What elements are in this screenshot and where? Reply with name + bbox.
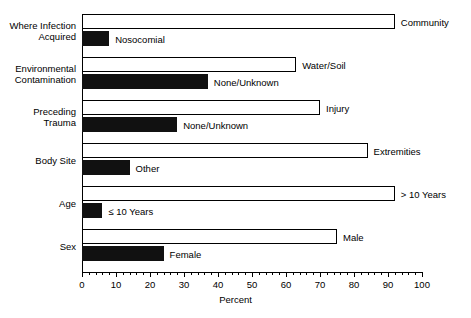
category-label: Sex xyxy=(0,241,76,252)
x-tick-minor xyxy=(415,272,416,275)
x-tick-minor xyxy=(96,272,97,275)
x-tick-minor xyxy=(313,272,314,275)
bar xyxy=(82,14,395,29)
x-tick-major xyxy=(286,272,287,277)
x-tick-label: 20 xyxy=(145,279,156,290)
x-tick-minor xyxy=(198,272,199,275)
x-tick-minor xyxy=(204,272,205,275)
bar-label: Extremities xyxy=(374,145,421,156)
x-tick-minor xyxy=(381,272,382,275)
x-tick-minor xyxy=(395,272,396,275)
bar-chart: Where InfectionAcquiredCommunityNosocomi… xyxy=(0,0,471,318)
x-tick-minor xyxy=(211,272,212,275)
x-tick-minor xyxy=(334,272,335,275)
x-tick-minor xyxy=(164,272,165,275)
category-label: Body Site xyxy=(0,155,76,166)
bar-label: > 10 Years xyxy=(401,188,446,199)
x-tick-major xyxy=(116,272,117,277)
x-tick-minor xyxy=(238,272,239,275)
bar-label: Female xyxy=(170,248,202,259)
category-label: Where InfectionAcquired xyxy=(0,20,76,42)
bar xyxy=(82,229,337,244)
x-tick-minor xyxy=(245,272,246,275)
x-tick-major xyxy=(320,272,321,277)
bar xyxy=(82,186,395,201)
category-label-line: Environmental xyxy=(0,63,76,74)
x-tick-minor xyxy=(177,272,178,275)
x-tick-minor xyxy=(361,272,362,275)
x-tick-minor xyxy=(136,272,137,275)
x-tick-minor xyxy=(266,272,267,275)
bar-label: Injury xyxy=(326,102,349,113)
x-tick-major xyxy=(388,272,389,277)
x-tick-major xyxy=(422,272,423,277)
x-tick-minor xyxy=(306,272,307,275)
bar xyxy=(82,160,130,175)
category-label-line: Where Infection xyxy=(0,20,76,31)
x-tick-minor xyxy=(368,272,369,275)
x-tick-minor xyxy=(347,272,348,275)
category-label-line: Body Site xyxy=(0,155,76,166)
bar-label: Other xyxy=(136,162,160,173)
x-tick-minor xyxy=(272,272,273,275)
plot-area: Where InfectionAcquiredCommunityNosocomi… xyxy=(82,14,422,272)
x-tick-minor xyxy=(340,272,341,275)
x-tick-label: 40 xyxy=(213,279,224,290)
bar-label: Nosocomial xyxy=(115,33,165,44)
x-tick-label: 90 xyxy=(383,279,394,290)
x-tick-minor xyxy=(327,272,328,275)
bar xyxy=(82,117,177,132)
bar-label: ≤ 10 Years xyxy=(108,205,153,216)
x-tick-minor xyxy=(191,272,192,275)
category-label: EnvironmentalContamination xyxy=(0,63,76,85)
category-label: Age xyxy=(0,198,76,209)
x-tick-label: 100 xyxy=(414,279,430,290)
x-tick-minor xyxy=(232,272,233,275)
category-label-line: Sex xyxy=(0,241,76,252)
x-tick-minor xyxy=(102,272,103,275)
x-tick-minor xyxy=(300,272,301,275)
category-label-line: Contamination xyxy=(0,74,76,85)
x-tick-major xyxy=(150,272,151,277)
x-tick-minor xyxy=(89,272,90,275)
x-tick-minor xyxy=(130,272,131,275)
bar xyxy=(82,203,102,218)
bar-label: Water/Soil xyxy=(302,59,345,70)
category-label-line: Trauma xyxy=(0,117,76,128)
x-tick-minor xyxy=(259,272,260,275)
x-tick-minor xyxy=(157,272,158,275)
x-tick-minor xyxy=(123,272,124,275)
category-label-line: Acquired xyxy=(0,31,76,42)
x-tick-minor xyxy=(225,272,226,275)
bar xyxy=(82,74,208,89)
x-tick-major xyxy=(82,272,83,277)
category-label-line: Age xyxy=(0,198,76,209)
bar-label: None/Unknown xyxy=(214,76,279,87)
x-tick-major xyxy=(354,272,355,277)
category-label: PrecedingTrauma xyxy=(0,106,76,128)
bar-label: Community xyxy=(401,16,449,27)
category-label-line: Preceding xyxy=(0,106,76,117)
bar xyxy=(82,143,368,158)
x-tick-major xyxy=(252,272,253,277)
x-tick-minor xyxy=(143,272,144,275)
x-tick-label: 10 xyxy=(111,279,122,290)
x-tick-major xyxy=(218,272,219,277)
x-tick-major xyxy=(184,272,185,277)
x-tick-minor xyxy=(109,272,110,275)
x-tick-label: 80 xyxy=(349,279,360,290)
x-tick-minor xyxy=(374,272,375,275)
x-tick-minor xyxy=(408,272,409,275)
x-axis-title: Percent xyxy=(0,294,471,305)
bar xyxy=(82,246,164,261)
x-tick-label: 50 xyxy=(247,279,258,290)
x-tick-label: 0 xyxy=(79,279,84,290)
x-tick-minor xyxy=(402,272,403,275)
x-tick-label: 60 xyxy=(281,279,292,290)
x-tick-label: 30 xyxy=(179,279,190,290)
x-tick-minor xyxy=(279,272,280,275)
bar xyxy=(82,100,320,115)
bar xyxy=(82,31,109,46)
bar xyxy=(82,57,296,72)
x-tick-minor xyxy=(293,272,294,275)
